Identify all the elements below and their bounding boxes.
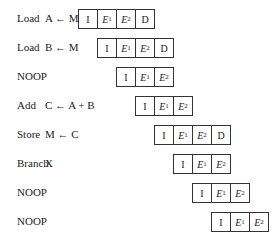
pipeline-stages: IE1E2 <box>117 67 174 86</box>
pipeline-stages: IE1E2D <box>155 125 231 144</box>
instruction-opcode: Store <box>17 128 40 140</box>
pipeline-stages: IE1E2D <box>79 9 155 28</box>
stage-box: I <box>154 125 174 145</box>
instruction-opcode: Load <box>17 12 40 24</box>
pipeline-stages: IE1E2 <box>193 183 250 202</box>
instruction-row: NOOPIE1E2 <box>0 183 279 202</box>
pipeline-stages: IE1E2 <box>212 212 269 231</box>
instruction-opcode: NOOP <box>17 70 47 82</box>
instruction-opcode: NOOP <box>17 186 47 198</box>
instruction-row: BranchXIE1E2 <box>0 154 279 173</box>
stage-box: E2 <box>249 212 269 232</box>
instruction-opcode: NOOP <box>17 215 47 227</box>
stage-box: I <box>135 96 155 116</box>
stage-box: E1 <box>230 212 250 232</box>
instruction-row: LoadA ← MIE1E2D <box>0 9 279 28</box>
instruction-opcode: Branch <box>17 157 49 169</box>
stage-box: E2 <box>135 38 155 58</box>
instruction-row: AddC ← A + BIE1E2 <box>0 96 279 115</box>
instruction-opcode: Add <box>17 99 36 111</box>
stage-box: D <box>211 125 231 145</box>
stage-box: E1 <box>192 154 212 174</box>
instruction-row: NOOPIE1E2 <box>0 67 279 86</box>
stage-box: E2 <box>116 9 136 29</box>
stage-box: E2 <box>230 183 250 203</box>
stage-box: D <box>154 38 174 58</box>
instruction-opcode: Load <box>17 41 40 53</box>
stage-box: E1 <box>135 67 155 87</box>
stage-box: E2 <box>211 154 231 174</box>
stage-box: E1 <box>211 183 231 203</box>
pipeline-stages: IE1E2D <box>98 38 174 57</box>
stage-box: D <box>135 9 155 29</box>
stage-box: E1 <box>97 9 117 29</box>
instruction-row: LoadB ← MIE1E2D <box>0 38 279 57</box>
instruction-operands: X <box>45 157 53 169</box>
stage-box: E1 <box>154 96 174 116</box>
instruction-operands: C ← A + B <box>45 99 95 111</box>
stage-box: I <box>211 212 231 232</box>
stage-box: I <box>97 38 117 58</box>
stage-box: I <box>173 154 193 174</box>
instruction-row: NOOPIE1E2 <box>0 212 279 231</box>
instruction-row: StoreM ← CIE1E2D <box>0 125 279 144</box>
stage-box: E2 <box>154 67 174 87</box>
instruction-operands: A ← M <box>45 12 79 24</box>
instruction-operands: M ← C <box>45 128 79 140</box>
stage-box: E1 <box>173 125 193 145</box>
pipeline-stages: IE1E2 <box>174 154 231 173</box>
stage-box: I <box>78 9 98 29</box>
stage-box: E2 <box>173 96 193 116</box>
pipeline-stages: IE1E2 <box>136 96 193 115</box>
stage-box: E1 <box>116 38 136 58</box>
stage-box: I <box>192 183 212 203</box>
instruction-operands: B ← M <box>45 41 79 53</box>
stage-box: I <box>116 67 136 87</box>
stage-box: E2 <box>192 125 212 145</box>
